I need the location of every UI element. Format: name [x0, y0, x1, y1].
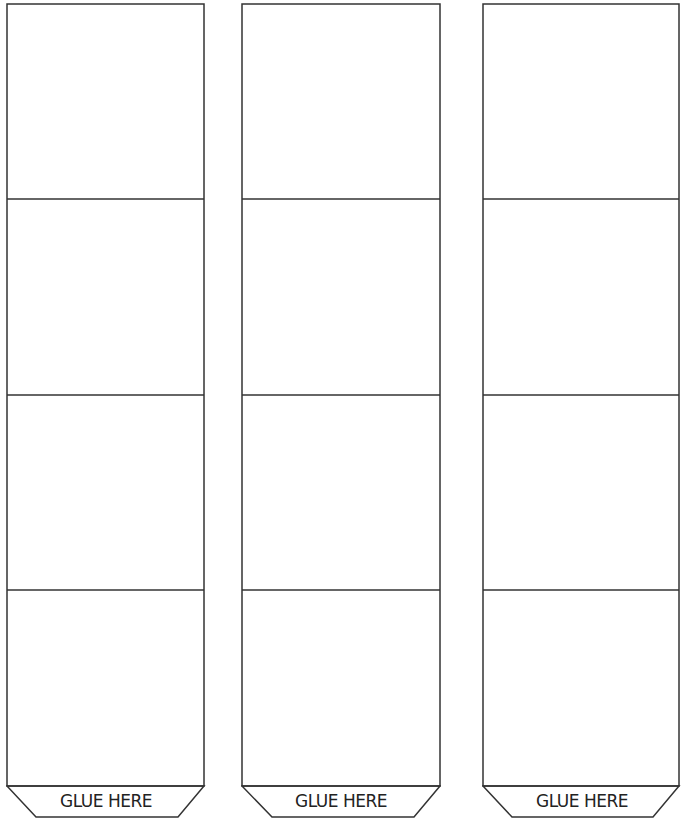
strip-1-glue-tab-label: GLUE HERE	[6, 790, 206, 812]
strip-3-cell-3	[482, 395, 682, 590]
strip-3: GLUE HERE	[482, 0, 682, 826]
strip-2-cell-4	[241, 590, 441, 786]
strip-2-cell-3	[241, 395, 441, 590]
strip-3-cell-4	[482, 590, 682, 786]
strip-2-cell-2	[241, 199, 441, 395]
strip-3-cell-2	[482, 199, 682, 395]
strip-2: GLUE HERE	[241, 0, 441, 826]
strip-1: GLUE HERE	[6, 0, 206, 826]
strip-3-cell-1	[482, 4, 682, 199]
strip-3-glue-tab-label: GLUE HERE	[482, 790, 682, 812]
strip-1-cell-2	[6, 199, 206, 395]
strip-2-glue-tab-label: GLUE HERE	[241, 790, 441, 812]
strip-1-cell-1	[6, 4, 206, 199]
strip-2-cell-1	[241, 4, 441, 199]
strip-1-cell-3	[6, 395, 206, 590]
strip-1-cell-4	[6, 590, 206, 786]
